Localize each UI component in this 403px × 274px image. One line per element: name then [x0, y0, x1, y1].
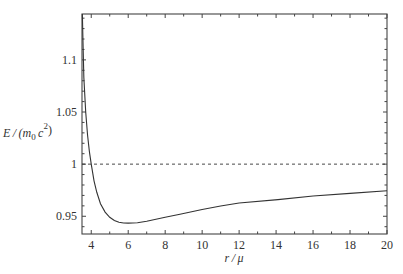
- plot-border: [82, 14, 387, 234]
- x-tick-label: 14: [270, 238, 282, 252]
- x-tick-label: 4: [88, 238, 94, 252]
- x-axis-label: r / μ: [225, 251, 244, 265]
- y-tick-label: 1: [71, 157, 77, 171]
- energy-vs-radius-chart: 4681012141618200.9511.051.1 r / μ E / (m…: [0, 0, 403, 274]
- x-tick-label: 6: [125, 238, 131, 252]
- x-tick-label: 18: [344, 238, 356, 252]
- energy-curve: [82, 14, 387, 223]
- x-tick-label: 8: [162, 238, 168, 252]
- y-tick-label: 0.95: [56, 209, 77, 223]
- plot-frame: [82, 14, 387, 234]
- y-tick-label: 1.05: [56, 105, 77, 119]
- x-tick-label: 12: [233, 238, 245, 252]
- axis-tick-labels: 4681012141618200.9511.051.1: [56, 53, 393, 252]
- y-axis-label: E / (m0 c2): [2, 121, 52, 142]
- y-tick-label: 1.1: [62, 53, 77, 67]
- x-tick-label: 20: [381, 238, 393, 252]
- x-tick-label: 16: [307, 238, 319, 252]
- x-tick-label: 10: [196, 238, 208, 252]
- data-series: [82, 14, 387, 223]
- axis-ticks: [82, 14, 387, 234]
